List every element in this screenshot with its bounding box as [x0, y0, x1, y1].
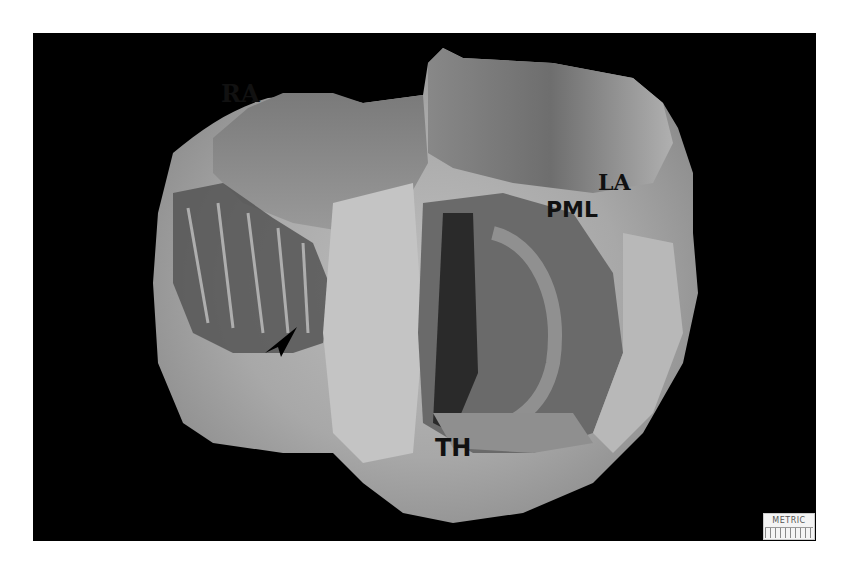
photo-frame: RA LA PML TH METRIC [33, 33, 816, 541]
ruler-label: METRIC [764, 516, 814, 525]
label-pml: PML [546, 199, 598, 221]
label-th: TH [435, 436, 471, 460]
label-la: LA [598, 171, 631, 193]
ruler-ticks [765, 527, 813, 538]
metric-scale-ruler: METRIC [763, 513, 815, 540]
arrow-pointer-icon [261, 323, 301, 363]
label-ra: RA [221, 82, 260, 106]
heart-specimen [33, 33, 816, 541]
